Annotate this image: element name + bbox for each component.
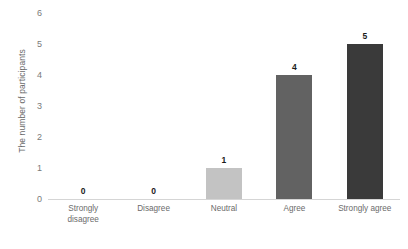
bar [276,75,312,199]
x-axis-category-labels: StronglydisagreeDisagreeNeutralAgreeStro… [48,203,400,225]
bar-slot: 5 [330,13,400,199]
bar-value-label: 1 [189,155,259,165]
bar-value-label: 4 [259,62,329,72]
y-axis-tick-label: 3 [22,101,42,111]
bar-slot: 0 [48,13,118,199]
x-axis-category-label: Disagree [118,203,188,225]
bar-slot: 1 [189,13,259,199]
y-axis-tick-label: 4 [22,70,42,80]
x-axis-category-label: Agree [259,203,329,225]
x-axis-category-label-line: Neutral [189,203,259,214]
x-axis-category-label: Strongly agree [330,203,400,225]
y-axis-tick-labels: 0123456 [22,0,42,249]
bar-value-label: 5 [330,31,400,41]
x-axis-category-label: Stronglydisagree [48,203,118,225]
x-axis-category-label-line: Strongly agree [330,203,400,214]
bar-value-label: 0 [118,186,188,196]
y-axis-tick-label: 6 [22,8,42,18]
bar-slot: 4 [259,13,329,199]
x-axis-line [48,199,400,200]
bar-series: 00145 [48,13,400,199]
bar-slot: 0 [118,13,188,199]
x-axis-category-label-line: Disagree [118,203,188,214]
y-axis-tick-label: 5 [22,39,42,49]
x-axis-category-label: Neutral [189,203,259,225]
x-axis-category-label-line: disagree [48,214,118,225]
y-axis-tick-label: 2 [22,132,42,142]
bar-value-label: 0 [48,186,118,196]
bar [206,168,242,199]
y-axis-tick-label: 1 [22,163,42,173]
y-axis-tick-label: 0 [22,194,42,204]
bar-chart: The number of participants 0123456 00145… [0,0,408,249]
x-axis-category-label-line: Strongly [48,203,118,214]
x-axis-category-label-line: Agree [259,203,329,214]
bar [347,44,383,199]
